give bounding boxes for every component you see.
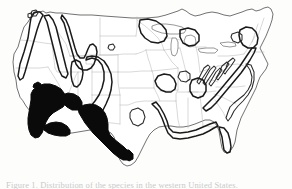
lake-michigan xyxy=(171,38,178,56)
figure-root: Figure 1. Distribution of the species in… xyxy=(0,0,292,189)
figure-caption-text: Figure 1. Distribution of the species in… xyxy=(6,181,238,189)
range-olympic-fleck xyxy=(28,13,32,18)
us-distribution-map xyxy=(0,0,292,189)
figure-caption-strip: Figure 1. Distribution of the species in… xyxy=(0,181,292,189)
lake-erie xyxy=(198,48,218,53)
